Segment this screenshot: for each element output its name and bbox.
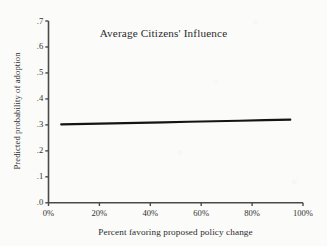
y-axis-tick-label: .6	[21, 41, 43, 51]
y-axis-tick-label: .4	[21, 93, 43, 103]
y-axis-label: Predicted probability of adoption	[12, 31, 22, 191]
x-axis-tick-label: 40%	[130, 208, 170, 218]
chart-figure: Average Citizens' Influence Predicted pr…	[0, 0, 327, 246]
chart-title: Average Citizens' Influence	[0, 27, 327, 39]
y-axis-tick-label: .7	[21, 16, 43, 26]
x-axis-tick-label: 20%	[79, 208, 119, 218]
data-series-line	[61, 120, 290, 125]
y-axis-tick-label: .5	[21, 67, 43, 77]
x-axis-tick-label: 0%	[29, 208, 69, 218]
y-axis-tick-label: .3	[21, 119, 43, 129]
x-axis-tick-label: 60%	[181, 208, 221, 218]
y-axis-tick-label: .0	[21, 197, 43, 207]
x-axis-label: Percent favoring proposed policy change	[48, 227, 303, 237]
y-axis-tick-label: .2	[21, 145, 43, 155]
x-axis-tick-label: 80%	[232, 208, 272, 218]
x-axis-tick-label: 100%	[283, 208, 323, 218]
y-axis-tick-label: .1	[21, 171, 43, 181]
